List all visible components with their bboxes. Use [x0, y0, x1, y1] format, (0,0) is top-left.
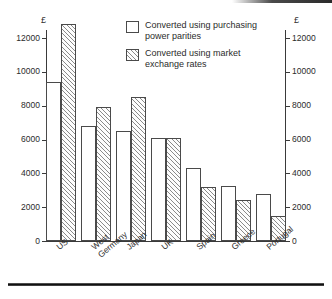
right-axis-tick-label: 12000: [292, 34, 316, 43]
right-axis-tick: [286, 38, 290, 39]
left-axis-tick-label: 8000: [21, 101, 40, 110]
bar: [131, 97, 146, 241]
legend-label-ppp: Converted using purchasing power paritie…: [145, 20, 278, 41]
open-square-icon: [126, 21, 139, 33]
right-axis-tick-label: 8000: [292, 101, 311, 110]
legend-label-market-line2: exchange rates: [145, 59, 207, 69]
left-axis-tick-label: 4000: [21, 169, 40, 178]
right-axis-tick-label: 10000: [292, 67, 316, 76]
bar: [81, 126, 96, 241]
bar: [186, 168, 201, 241]
right-axis-tick: [286, 106, 290, 107]
bar: [166, 138, 181, 241]
chart-figure: £ £ 002000200040004000600060008000800010…: [0, 0, 332, 299]
left-axis-tick: [42, 72, 46, 73]
legend-label-ppp-line2: power parities: [145, 31, 201, 41]
right-axis-tick: [286, 207, 290, 208]
hatched-square-icon: [126, 49, 139, 61]
plot-area: £ £ 002000200040004000600060008000800010…: [0, 0, 332, 299]
left-axis-unit: £: [41, 16, 46, 25]
right-axis-tick: [286, 72, 290, 73]
bar: [256, 194, 271, 241]
bottom-rule: [8, 283, 324, 286]
left-axis-tick-label: 12000: [16, 34, 40, 43]
bar: [61, 24, 76, 241]
legend-label-market-line1: Converted using market: [145, 48, 241, 58]
right-axis-unit: £: [294, 16, 299, 25]
legend-item-market: Converted using market exchange rates: [126, 48, 278, 70]
right-axis-tick: [286, 140, 290, 141]
right-axis-line: [285, 30, 286, 242]
right-axis-tick: [286, 241, 290, 242]
bar: [96, 107, 111, 241]
legend-label-ppp-line1: Converted using purchasing: [145, 20, 257, 30]
left-axis-tick-label: 0: [35, 237, 40, 246]
right-axis-tick: [286, 173, 290, 174]
right-axis-tick-label: 0: [292, 237, 297, 246]
chart-legend: Converted using purchasing power paritie…: [126, 20, 278, 76]
left-axis-tick-label: 6000: [21, 135, 40, 144]
left-axis-tick: [42, 241, 46, 242]
bar: [221, 186, 236, 241]
left-axis-tick-label: 2000: [21, 203, 40, 212]
bar: [151, 138, 166, 241]
left-axis-tick-label: 10000: [16, 67, 40, 76]
left-axis-tick: [42, 38, 46, 39]
legend-label-market: Converted using market exchange rates: [145, 48, 278, 69]
right-axis-tick-label: 6000: [292, 135, 311, 144]
right-axis-tick-label: 2000: [292, 203, 311, 212]
legend-item-ppp: Converted using purchasing power paritie…: [126, 20, 278, 42]
right-axis-tick-label: 4000: [292, 169, 311, 178]
bar: [46, 82, 61, 241]
